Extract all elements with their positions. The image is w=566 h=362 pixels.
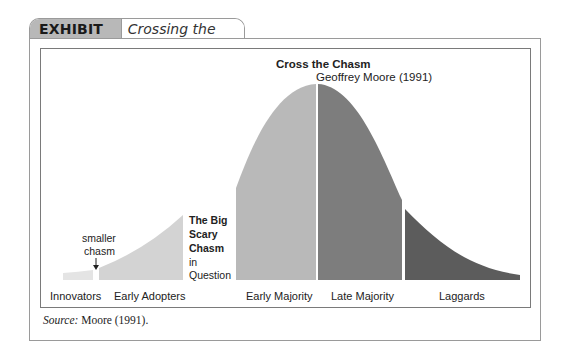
- segment-late-majority: [318, 84, 402, 280]
- big-chasm-line-5: Question: [189, 269, 231, 281]
- segment-early-majority: [236, 84, 316, 280]
- big-chasm-line-3: Chasm: [189, 242, 224, 254]
- adoption-curve: [0, 0, 566, 362]
- source-prefix: Source:: [43, 314, 78, 326]
- segment-laggards: [405, 209, 520, 280]
- author-line: Geoffrey Moore (1991): [316, 71, 432, 83]
- diagram-heading: Cross the Chasm: [276, 58, 371, 70]
- segment-innovators: [63, 270, 93, 280]
- label-early-majority: Early Majority: [246, 290, 313, 302]
- label-laggards: Laggards: [439, 290, 485, 302]
- small-chasm-label-2: chasm: [84, 245, 115, 257]
- label-early-adopters: Early Adopters: [114, 290, 186, 302]
- label-innovators: Innovators: [50, 290, 101, 302]
- source-text: Moore (1991).: [78, 314, 148, 326]
- label-late-majority: Late Majority: [331, 290, 394, 302]
- big-chasm-line-4: in: [189, 256, 197, 268]
- big-chasm-line-1: The Big: [189, 214, 228, 226]
- arrow-down-icon: [93, 265, 99, 270]
- big-chasm-line-2: Scary: [189, 228, 218, 240]
- source-note: Source: Moore (1991).: [43, 314, 148, 326]
- small-chasm-label-1: smaller: [82, 232, 116, 244]
